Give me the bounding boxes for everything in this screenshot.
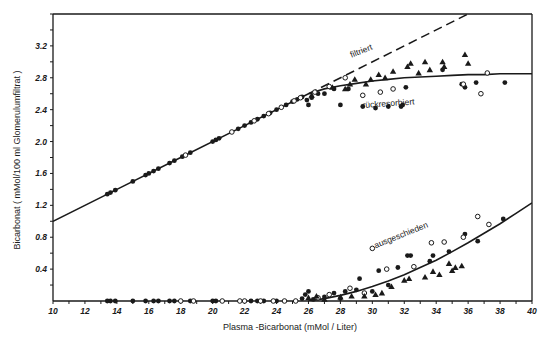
point-filled-circle [242, 123, 247, 128]
point-open-circle [348, 286, 353, 291]
y-tick-label: 0.4 [35, 264, 47, 274]
point-open-circle [279, 105, 284, 110]
point-filled-circle [332, 291, 337, 296]
x-tick-label: 38 [495, 306, 505, 316]
point-open-circle [191, 299, 196, 304]
point-filled-circle [113, 299, 118, 304]
x-tick-label: 18 [176, 306, 186, 316]
point-filled-circle [338, 102, 343, 107]
x-tick-label: 12 [80, 306, 90, 316]
point-filled-circle [156, 166, 161, 171]
point-filled-circle [236, 126, 241, 131]
x-tick-label: 34 [431, 306, 441, 316]
point-open-circle [258, 299, 263, 304]
y-tick-label: 3.2 [35, 41, 47, 51]
point-filled-circle [370, 289, 375, 294]
point-open-circle [412, 264, 417, 269]
point-open-circle [313, 90, 318, 95]
x-tick-label: 40 [526, 306, 537, 316]
point-open-circle [475, 214, 480, 219]
x-tick-label: 28 [335, 306, 346, 316]
point-open-circle [479, 91, 484, 96]
point-filled-circle [188, 150, 193, 155]
point-open-circle [292, 99, 297, 104]
point-filled-circle [284, 102, 289, 107]
point-filled-circle [108, 190, 113, 195]
x-tick-label: 22 [239, 306, 250, 316]
point-filled-circle [249, 299, 254, 304]
point-filled-circle [408, 253, 413, 258]
point-filled-circle [322, 91, 327, 96]
point-filled-circle [343, 289, 348, 294]
point-filled-circle [501, 216, 506, 221]
point-open-circle [271, 299, 276, 304]
point-filled-circle [156, 299, 161, 304]
point-filled-circle [130, 299, 135, 304]
y-tick-label: 2.8 [34, 73, 47, 83]
y-tick-label: 2.0 [34, 137, 47, 147]
point-filled-circle [146, 171, 151, 176]
point-filled-circle [261, 114, 266, 119]
point-open-circle [391, 87, 396, 92]
x-tick-label: 24 [271, 306, 282, 316]
background [0, 0, 549, 344]
point-filled-circle [357, 276, 362, 281]
point-filled-circle [167, 161, 172, 166]
point-filled-circle [151, 169, 156, 174]
x-tick-label: 20 [207, 306, 218, 316]
point-open-circle [343, 75, 348, 80]
point-filled-circle [306, 102, 311, 107]
point-open-circle [442, 240, 447, 245]
y-tick-label: 1.6 [35, 168, 47, 178]
point-filled-circle [300, 296, 305, 301]
y-tick-label: 2.4 [34, 105, 47, 115]
y-tick-label: 0.8 [35, 232, 47, 242]
chart: 10121416182022242628303234363840 0.40.81… [0, 0, 549, 344]
x-tick-label: 32 [400, 306, 410, 316]
point-open-circle [252, 119, 257, 124]
point-filled-circle [403, 85, 408, 90]
point-open-circle [178, 299, 183, 304]
point-filled-circle [274, 107, 279, 112]
point-filled-circle [217, 136, 222, 141]
point-filled-circle [213, 299, 218, 304]
point-filled-circle [143, 299, 148, 304]
point-open-circle [242, 299, 247, 304]
point-filled-circle [304, 98, 309, 103]
x-tick-label: 26 [303, 306, 314, 316]
point-filled-circle [376, 268, 381, 273]
x-tick-label: 10 [48, 306, 58, 316]
point-open-circle [298, 95, 303, 100]
point-open-circle [384, 267, 389, 272]
point-filled-circle [167, 299, 172, 304]
point-open-circle [230, 130, 235, 135]
point-open-circle [461, 82, 466, 87]
point-filled-circle [474, 80, 479, 85]
point-filled-circle [172, 158, 177, 163]
point-open-circle [327, 292, 332, 297]
point-filled-circle [172, 299, 177, 304]
point-open-circle [282, 299, 287, 304]
point-filled-circle [395, 265, 400, 270]
y-tick-label: 1.2 [35, 200, 47, 210]
point-open-circle [183, 153, 188, 158]
point-filled-circle [431, 253, 436, 258]
x-tick-label: 16 [144, 306, 154, 316]
point-filled-circle [113, 188, 118, 193]
x-tick-label: 14 [112, 306, 122, 316]
point-filled-circle [427, 259, 432, 264]
point-filled-circle [502, 80, 507, 85]
point-open-circle [461, 235, 466, 240]
point-filled-circle [475, 239, 480, 244]
point-open-circle [266, 111, 271, 116]
y-axis-title: Bicarbonat ( mMol/100 ml Glomerulumfiltr… [12, 70, 22, 249]
point-filled-circle [447, 249, 452, 254]
point-open-circle [293, 299, 298, 304]
point-filled-circle [130, 179, 135, 184]
point-open-circle [220, 299, 225, 304]
point-open-circle [360, 93, 365, 98]
point-filled-circle [306, 289, 311, 294]
point-open-circle [429, 241, 434, 246]
point-filled-circle [108, 299, 113, 304]
point-filled-circle [151, 299, 156, 304]
